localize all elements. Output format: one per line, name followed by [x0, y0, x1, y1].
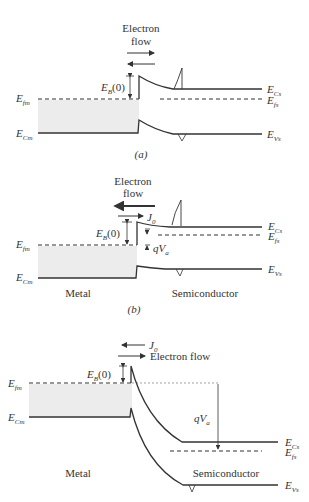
label-efm: Efm [15, 238, 30, 253]
metal-label: Metal [65, 287, 91, 299]
label-ecm: ECm [15, 127, 32, 142]
label-ecm: ECm [15, 271, 32, 286]
hole-distribution-icon [176, 269, 183, 276]
panel-c: J0 Electron flow EB(0) qVa Efm ECm ECs E… [7, 339, 299, 494]
electron-distribution-icon [172, 200, 181, 226]
metal-label: Metal [65, 467, 91, 479]
voltage-label: qVa [194, 412, 210, 427]
panel-a: Electron flow EB(0) Efm ECm ECs Efs EVs … [15, 22, 281, 161]
voltage-label: qVa [153, 242, 169, 257]
caption-b: (b) [128, 303, 141, 316]
flow-label: Electron flow [150, 350, 210, 362]
ecs-line [139, 76, 262, 99]
barrier-label: EB(0) [86, 368, 111, 383]
panel-b: Electron flow J0 EB(0) qVa Efm ECm ECs E… [15, 175, 282, 316]
electron-distribution-icon [174, 68, 182, 89]
flow-title-2: flow [123, 187, 143, 199]
label-efm: Efm [7, 377, 22, 392]
flow-title-1: Electron [122, 22, 160, 34]
label-ecm: ECm [7, 411, 24, 426]
label-evs: EVs [267, 263, 282, 278]
barrier-label: EB(0) [95, 227, 120, 242]
ecs-line [131, 366, 278, 442]
label-evs: EVs [284, 479, 299, 494]
flow-title-2: flow [131, 35, 151, 47]
semiconductor-label: Semiconductor [193, 467, 260, 479]
current-label: J0 [147, 211, 156, 226]
metal-filled-states [29, 384, 132, 417]
semiconductor-label: Semiconductor [172, 287, 239, 299]
label-evs: EVs [266, 128, 281, 143]
band-diagrams: Electron flow EB(0) Efm ECm ECs Efs EVs … [0, 0, 309, 502]
label-efm: Efm [15, 92, 30, 107]
metal-filled-states [38, 100, 139, 133]
hole-distribution-icon [189, 485, 195, 492]
metal-filled-states [38, 246, 137, 278]
barrier-label: EB(0) [100, 81, 125, 96]
flow-title-1: Electron [114, 175, 152, 187]
caption-a: (a) [135, 148, 148, 161]
hole-distribution-icon [178, 134, 186, 141]
